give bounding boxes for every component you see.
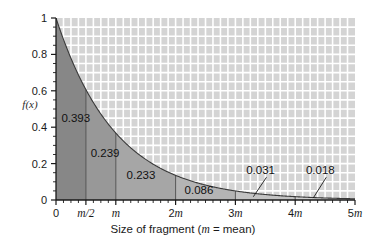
exponential-fragment-size-chart: 00.20.40.60.81 0m/2m2m3m4m5m f(x) Size o… xyxy=(0,0,365,240)
x-tick-label: 5m xyxy=(348,207,362,219)
x-tick-label: m/2 xyxy=(77,207,95,219)
area-label-0-086: 0.086 xyxy=(185,184,214,196)
x-tick-label: 3m xyxy=(228,207,242,219)
y-tick-label: 0.2 xyxy=(32,158,47,170)
y-tick-label: 1 xyxy=(41,12,47,24)
x-tick-label: m xyxy=(112,207,120,219)
area-label-0-233: 0.233 xyxy=(127,169,156,181)
y-tick-label: 0 xyxy=(41,194,47,206)
area-label-0-031: 0.031 xyxy=(246,164,275,176)
x-tick-label: 4m xyxy=(288,207,302,219)
x-axis-title-suffix: = mean) xyxy=(210,223,256,235)
area-label-0-018: 0.018 xyxy=(306,164,335,176)
x-tick-label: 2m xyxy=(168,207,182,219)
area-label-0-239: 0.239 xyxy=(91,147,120,159)
y-axis-title: f(x) xyxy=(22,98,38,111)
x-axis-title-prefix: Size of fragment ( xyxy=(111,223,202,235)
y-tick-label: 0.8 xyxy=(32,48,47,60)
y-tick-label: 0.4 xyxy=(32,121,47,133)
x-axis-title-italic-m: m xyxy=(201,223,209,235)
x-tick-label: 0 xyxy=(53,207,59,219)
area-label-0-393: 0.393 xyxy=(61,112,90,124)
x-axis-title: Size of fragment (m = mean) xyxy=(111,223,256,235)
chart-canvas: 00.20.40.60.81 0m/2m2m3m4m5m f(x) Size o… xyxy=(0,0,365,240)
y-tick-label: 0.6 xyxy=(32,85,47,97)
